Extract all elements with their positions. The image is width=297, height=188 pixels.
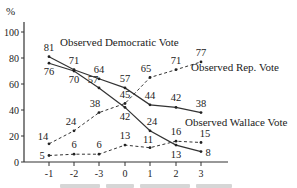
data-value: 24 [66, 116, 77, 127]
data-value: 81 [44, 42, 55, 53]
data-value: 38 [196, 98, 207, 109]
y-tick-label: 80 [9, 53, 19, 64]
data-value: 71 [171, 55, 182, 66]
data-point [73, 70, 76, 73]
data-point [124, 144, 127, 147]
data-value: 77 [196, 47, 207, 58]
data-point [73, 129, 76, 132]
data-point [175, 106, 178, 109]
figure-caption-blurred [60, 176, 240, 182]
data-value: 5 [39, 150, 44, 161]
annotation-republican: Observed Rep. Vote [191, 61, 279, 73]
data-point [98, 153, 101, 156]
data-point [48, 142, 51, 145]
data-value: 6 [96, 139, 101, 150]
data-point [149, 146, 152, 149]
y-tick-label: 0 [14, 157, 19, 168]
data-point [149, 129, 152, 132]
data-point [124, 106, 127, 109]
data-point [175, 144, 178, 147]
y-tick-label: 100 [4, 27, 19, 38]
annotation-democratic: Observed Democratic Vote [60, 36, 179, 48]
data-point [200, 150, 203, 153]
data-value: 76 [44, 66, 55, 77]
data-value: 6 [71, 139, 76, 150]
data-value: 24 [147, 116, 158, 127]
data-value: 38 [90, 98, 101, 109]
data-point [48, 55, 51, 58]
data-value: 16 [171, 126, 182, 137]
data-value: 71 [69, 55, 80, 66]
data-labels: 8171645744423876705742241381424384565717… [38, 42, 211, 161]
data-point [200, 141, 203, 144]
data-point [175, 140, 178, 143]
data-value: 57 [120, 73, 131, 84]
data-point [124, 102, 127, 105]
data-value: 44 [145, 90, 156, 101]
data-point [48, 154, 51, 157]
data-value: 45 [120, 89, 131, 100]
y-tick-label: 20 [9, 131, 19, 142]
data-point [149, 76, 152, 79]
y-unit-label: % [6, 5, 15, 17]
y-tick-label: 60 [9, 79, 19, 90]
data-value: 14 [38, 131, 49, 142]
data-value: 8 [205, 147, 210, 158]
data-value: 13 [171, 149, 182, 160]
data-value: 70 [69, 74, 80, 85]
data-point [48, 62, 51, 65]
data-value: 65 [141, 63, 152, 74]
data-point [200, 111, 203, 114]
data-value: 42 [171, 92, 182, 103]
annotation-wallace: Observed Wallace Vote [185, 116, 287, 128]
data-value: 11 [143, 134, 153, 145]
data-point [149, 103, 152, 106]
y-tick-label: 40 [9, 105, 19, 116]
data-value: 13 [120, 130, 131, 141]
data-point [98, 87, 101, 90]
data-value: 42 [120, 111, 131, 122]
data-value: 15 [200, 128, 211, 139]
line-chart: 020406080100-1-2-30123 81716457444238767… [0, 0, 297, 188]
x-tick-label: -1 [45, 168, 53, 179]
data-point [73, 153, 76, 156]
data-value: 57 [88, 74, 99, 85]
data-point [175, 68, 178, 71]
data-point [98, 111, 101, 114]
